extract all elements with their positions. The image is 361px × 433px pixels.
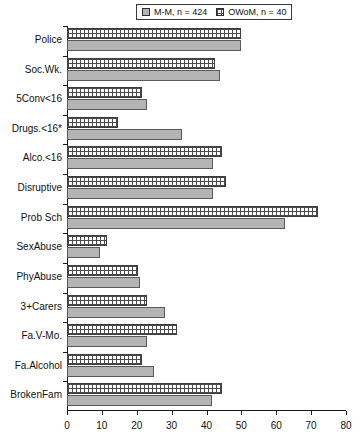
bar-chart: M-M, n = 424 OWoM, n = 40 PoliceSoc.Wk.5… <box>0 0 361 433</box>
y-axis-tick <box>63 26 67 27</box>
x-axis-tick-label: 80 <box>340 421 351 431</box>
bar-owom <box>67 206 318 217</box>
bar-group <box>67 383 346 407</box>
bar-group <box>67 354 346 378</box>
y-axis-tick <box>63 263 67 264</box>
x-axis-tick <box>311 411 312 415</box>
bar-mm <box>67 307 165 318</box>
bar-mm <box>67 395 212 406</box>
bar-owom <box>67 354 142 365</box>
legend-entry-owom: OWoM, n = 40 <box>216 8 286 17</box>
x-axis-tick <box>172 411 173 415</box>
bar-group <box>67 117 346 141</box>
bar-mm <box>67 158 213 169</box>
y-axis-tick <box>63 85 67 86</box>
x-axis-tick <box>137 411 138 415</box>
x-axis-tick-label: 30 <box>166 421 177 431</box>
category-label: Prob Sch <box>21 213 62 223</box>
y-axis-tick <box>63 293 67 294</box>
category-label: PhyAbuse <box>16 272 62 282</box>
bar-group <box>67 206 346 230</box>
bar-owom <box>67 28 241 39</box>
category-label: Police <box>35 35 62 45</box>
bar-owom <box>67 383 222 394</box>
bar-mm <box>67 40 241 51</box>
bar-owom <box>67 146 222 157</box>
bar-owom <box>67 324 177 335</box>
bar-owom <box>67 58 215 69</box>
category-label: SexAbuse <box>16 242 62 252</box>
x-axis-tick <box>241 411 242 415</box>
y-axis-tick <box>63 233 67 234</box>
legend-entry-mm: M-M, n = 424 <box>142 8 207 17</box>
bar-mm <box>67 247 100 258</box>
bar-group <box>67 58 346 82</box>
x-axis-tick-label: 20 <box>131 421 142 431</box>
bar-mm <box>67 366 154 377</box>
category-label: Fa.V-Mo. <box>21 331 62 341</box>
x-axis-tick-label: 50 <box>236 421 247 431</box>
category-label: Fa.Alcohol <box>15 361 62 371</box>
bar-owom <box>67 265 138 276</box>
x-axis-tick <box>346 411 347 415</box>
x-axis-tick <box>67 411 68 415</box>
y-axis-tick <box>63 144 67 145</box>
bar-mm <box>67 70 220 81</box>
bar-owom <box>67 117 118 128</box>
bar-group <box>67 265 346 289</box>
y-axis-tick <box>63 204 67 205</box>
y-axis-tick <box>63 352 67 353</box>
x-axis-tick-label: 10 <box>96 421 107 431</box>
x-axis-tick-label: 0 <box>64 421 70 431</box>
bar-mm <box>67 188 213 199</box>
bar-mm <box>67 129 182 140</box>
chart-legend: M-M, n = 424 OWoM, n = 40 <box>136 4 292 20</box>
solid-gray-swatch <box>142 8 150 16</box>
category-label: Disruptive <box>18 183 62 193</box>
category-label: Alco.<16 <box>23 153 62 163</box>
legend-label-mm: M-M, n = 424 <box>154 8 207 17</box>
y-axis-tick <box>63 56 67 57</box>
crosshatch-swatch <box>216 8 224 16</box>
bar-group <box>67 176 346 200</box>
bar-owom <box>67 176 226 187</box>
x-axis-tick-label: 40 <box>201 421 212 431</box>
x-axis-tick <box>102 411 103 415</box>
bar-owom <box>67 295 147 306</box>
x-axis-tick-label: 70 <box>306 421 317 431</box>
bar-mm <box>67 336 147 347</box>
legend-label-owom: OWoM, n = 40 <box>228 8 286 17</box>
bar-mm <box>67 277 140 288</box>
bar-owom <box>67 87 142 98</box>
category-label: Soc.Wk. <box>25 65 62 75</box>
category-axis-labels: PoliceSoc.Wk.5Conv<16Drugs.<16*Alco.<16D… <box>0 26 64 411</box>
bar-group <box>67 28 346 52</box>
category-label: Drugs.<16* <box>12 124 62 134</box>
bar-group <box>67 324 346 348</box>
bar-group <box>67 87 346 111</box>
category-label: 5Conv<16 <box>16 94 62 104</box>
y-axis-tick <box>63 174 67 175</box>
category-label: 3+Carers <box>21 302 62 312</box>
x-axis-tick-label: 60 <box>271 421 282 431</box>
y-axis-tick <box>63 115 67 116</box>
y-axis-tick <box>63 322 67 323</box>
bar-mm <box>67 99 147 110</box>
x-axis-tick <box>276 411 277 415</box>
bar-mm <box>67 218 285 229</box>
bar-owom <box>67 235 107 246</box>
bar-group <box>67 146 346 170</box>
x-axis-tick <box>207 411 208 415</box>
bar-group <box>67 295 346 319</box>
bar-group <box>67 235 346 259</box>
y-axis-tick <box>63 381 67 382</box>
plot-area: 01020304050607080 <box>67 26 346 411</box>
category-label: BrokenFam <box>10 390 62 400</box>
